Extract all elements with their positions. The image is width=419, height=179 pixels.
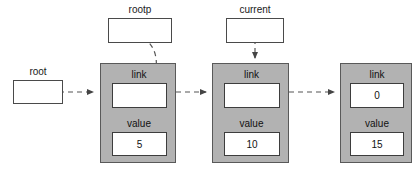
root-pointer-box[interactable] [13, 80, 63, 104]
node-1-link-value[interactable] [112, 83, 167, 108]
node-3-link-value[interactable]: 0 [350, 83, 404, 108]
node-1-link-label: link [101, 69, 177, 81]
node-3-value-value[interactable]: 15 [350, 132, 404, 156]
list-node-3[interactable]: link 0 value 15 [340, 63, 412, 163]
current-pointer-box[interactable] [226, 18, 284, 43]
node-2-value-value[interactable]: 10 [224, 132, 280, 156]
rootp-pointer-box[interactable] [108, 18, 172, 43]
node-1-value-value[interactable]: 5 [112, 132, 167, 156]
node-1-value-label: value [101, 118, 177, 130]
node-2-link-value[interactable] [224, 83, 280, 108]
rootp-pointer-label: rootp [108, 4, 172, 16]
node-2-link-label: link [213, 69, 290, 81]
node-3-value-label: value [341, 118, 413, 130]
linked-list-diagram: root rootp current link value 5 link val… [0, 0, 419, 179]
node-2-value-label: value [213, 118, 290, 130]
root-pointer-label: root [13, 66, 63, 78]
list-node-1[interactable]: link value 5 [100, 63, 176, 163]
node-3-link-label: link [341, 69, 413, 81]
current-pointer-label: current [226, 4, 284, 16]
list-node-2[interactable]: link value 10 [212, 63, 289, 163]
